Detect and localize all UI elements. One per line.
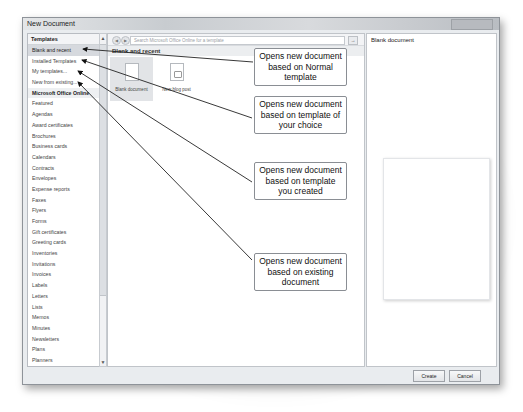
- sidebar-item-gift-certificates[interactable]: Gift certificates: [28, 227, 99, 238]
- sidebar-item-memos[interactable]: Memos: [28, 312, 99, 323]
- sidebar-item-newsletters[interactable]: Newsletters: [28, 334, 99, 345]
- sidebar-item-invitations[interactable]: Invitations: [28, 259, 99, 270]
- sidebar-item-featured[interactable]: Featured: [28, 98, 99, 109]
- callout-normal-template: Opens new document based on Normal templ…: [254, 48, 347, 86]
- window-title: New Document: [27, 18, 75, 30]
- search-toolbar: ◀ ▶ Search Microsoft Office Online for a…: [108, 34, 364, 46]
- blank-document-icon: [125, 63, 139, 81]
- preview-pane: Blank document: [366, 33, 497, 367]
- dialog-footer: Create Cancel: [23, 367, 499, 384]
- template-tile-new-blog-post[interactable]: New blog post: [155, 57, 198, 101]
- sidebar-item-forms[interactable]: Forms: [28, 216, 99, 227]
- preview-title: Blank document: [371, 37, 414, 43]
- scroll-up-icon[interactable]: ▲: [100, 35, 106, 41]
- sidebar-item-inventories[interactable]: Inventories: [28, 248, 99, 259]
- sidebar-item-blank-and-recent[interactable]: Blank and recent: [28, 45, 99, 56]
- sidebar-item-brochures[interactable]: Brochures: [28, 131, 99, 142]
- back-arrow-icon[interactable]: ◀: [112, 36, 121, 45]
- sidebar-header: Templates: [28, 34, 99, 45]
- cancel-button[interactable]: Cancel: [449, 370, 481, 382]
- sidebar-item-minutes[interactable]: Minutes: [28, 323, 99, 334]
- sidebar-item-business-cards[interactable]: Business cards: [28, 141, 99, 152]
- sidebar-item-invoices[interactable]: Invoices: [28, 269, 99, 280]
- sidebar-item-installed-templates[interactable]: Installed Templates: [28, 56, 99, 67]
- tile-label: New blog post: [155, 87, 198, 92]
- sidebar-item-new-from-existing[interactable]: New from existing...: [28, 77, 99, 88]
- template-tile-blank-document[interactable]: Blank document: [110, 57, 153, 101]
- search-go-button[interactable]: →: [348, 36, 358, 45]
- sidebar-item-labels[interactable]: Labels: [28, 280, 99, 291]
- sidebar-item-planners[interactable]: Planners: [28, 355, 99, 366]
- window-controls[interactable]: [451, 19, 493, 30]
- tile-label: Blank document: [110, 87, 153, 92]
- forward-arrow-icon[interactable]: ▶: [121, 36, 130, 45]
- templates-sidebar: Templates Blank and recent Installed Tem…: [27, 33, 100, 367]
- sidebar-item-faxes[interactable]: Faxes: [28, 195, 99, 206]
- scroll-down-icon[interactable]: ▼: [100, 359, 106, 365]
- sidebar-group-office-online: Microsoft Office Online: [28, 88, 99, 99]
- sidebar-item-plans[interactable]: Plans: [28, 344, 99, 355]
- sidebar-item-greeting-cards[interactable]: Greeting cards: [28, 237, 99, 248]
- callout-existing-document: Opens new document based on existing doc…: [254, 253, 347, 291]
- sidebar-item-my-templates[interactable]: My templates...: [28, 66, 99, 77]
- preview-page-thumbnail: [383, 158, 490, 300]
- blog-post-icon: [170, 63, 184, 81]
- sidebar-item-lists[interactable]: Lists: [28, 302, 99, 313]
- sidebar-scrollbar[interactable]: ▲ ▼: [99, 33, 107, 367]
- create-button[interactable]: Create: [413, 370, 445, 382]
- sidebar-item-envelopes[interactable]: Envelopes: [28, 173, 99, 184]
- callout-template-of-choice: Opens new document based on template of …: [254, 96, 347, 134]
- title-bar[interactable]: New Document: [23, 18, 499, 30]
- template-search-input[interactable]: Search Microsoft Office Online for a tem…: [130, 36, 345, 45]
- sidebar-item-flyers[interactable]: Flyers: [28, 205, 99, 216]
- sidebar-item-agendas[interactable]: Agendas: [28, 109, 99, 120]
- sidebar-item-expense-reports[interactable]: Expense reports: [28, 184, 99, 195]
- sidebar-item-calendars[interactable]: Calendars: [28, 152, 99, 163]
- scroll-thumb[interactable]: [100, 44, 106, 296]
- sidebar-item-contracts[interactable]: Contracts: [28, 163, 99, 174]
- sidebar-item-letters[interactable]: Letters: [28, 291, 99, 302]
- sidebar-item-award-certificates[interactable]: Award certificates: [28, 120, 99, 131]
- callout-template-you-created: Opens new document based on template you…: [254, 162, 347, 200]
